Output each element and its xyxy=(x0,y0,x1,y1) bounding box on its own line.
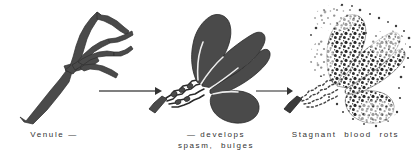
branching-venule-illustration xyxy=(0,0,140,128)
stage-2-caption: — developsspasm, bulges xyxy=(146,129,286,151)
stage-normal-venule: Venule — xyxy=(0,0,140,162)
stagnant-blood-rots-illustration xyxy=(280,0,415,128)
figure-venule-progression: Venule — xyxy=(0,0,415,162)
stage-3-caption: Stagnant blood rots xyxy=(278,129,413,140)
stage-2-caption-line-2: spasm, bulges xyxy=(178,141,254,150)
progression-arrow-2 xyxy=(256,84,294,98)
stage-2-caption-line-1: — develops xyxy=(187,130,245,139)
progression-arrow-1 xyxy=(99,84,163,98)
stage-1-caption: Venule — xyxy=(0,129,124,140)
spasm-bulges-venule-illustration xyxy=(140,0,280,128)
stage-spasm-bulges: — developsspasm, bulges xyxy=(140,0,280,162)
stage-stagnant-blood-rots: Stagnant blood rots xyxy=(280,0,415,162)
